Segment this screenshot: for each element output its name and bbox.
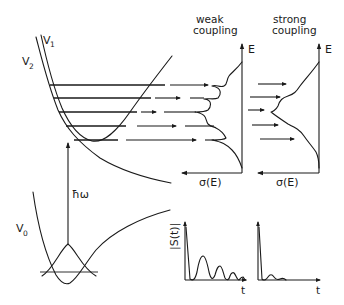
- potential-v1-curve: [41, 35, 172, 141]
- strong-spectrum-curve: [271, 62, 319, 168]
- strong-sigma-label: σ(E): [276, 176, 299, 189]
- strong-st-t-label: t: [316, 284, 320, 296]
- weak-sigma-label: σ(E): [199, 176, 222, 189]
- potential-v2-curve: [36, 37, 171, 183]
- label-v1: V 1: [43, 34, 55, 49]
- weak-energy-label: E: [248, 43, 255, 56]
- weak-dissociation-arrows: [126, 85, 214, 140]
- svg-text:0: 0: [23, 229, 28, 238]
- weak-title-line2: coupling: [193, 24, 238, 36]
- label-v2: V 2: [22, 55, 34, 71]
- strong-energy-label: E: [325, 43, 332, 56]
- strong-title-line2: coupling: [272, 24, 317, 36]
- svg-text:2: 2: [29, 62, 34, 71]
- photodissociation-diagram: V 1 V 2 V 0 ħω weak coupling E σ(E) stro…: [0, 0, 344, 305]
- label-hbar-omega: ħω: [72, 188, 89, 201]
- weak-st-t-label: t: [241, 284, 245, 296]
- label-v0: V 0: [16, 222, 28, 238]
- strong-autocorrelation-curve: [259, 227, 286, 280]
- svg-text:1: 1: [50, 40, 55, 49]
- potential-v0-curve: [33, 192, 170, 284]
- weak-autocorrelation-curve: [186, 227, 246, 280]
- weak-spectrum-curve: [195, 62, 242, 168]
- autocorr-y-label: |S(t)|: [168, 223, 181, 250]
